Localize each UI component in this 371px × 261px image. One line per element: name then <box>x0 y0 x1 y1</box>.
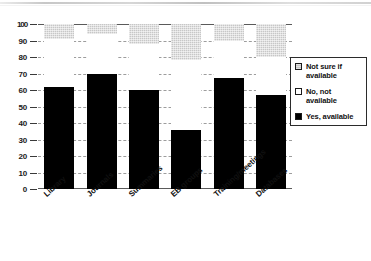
legend-swatch-yes <box>295 113 302 120</box>
y-axis-tick-label: 60 <box>19 86 28 95</box>
bar-segment <box>44 87 74 189</box>
y-axis-tick <box>30 189 37 190</box>
bar-segment <box>214 41 244 79</box>
y-axis-tick <box>30 41 37 42</box>
bar-group <box>171 24 201 189</box>
bar-segment <box>214 24 244 41</box>
legend-swatch-notsure <box>295 63 302 70</box>
x-axis-labels: LibraryJournalsSummariesEB groupsTrainin… <box>38 192 292 258</box>
bar-group <box>87 24 117 189</box>
y-axis-tick-label: 70 <box>19 69 28 78</box>
y-axis-tick <box>30 123 37 124</box>
y-axis-tick <box>30 74 37 75</box>
legend-item[interactable]: No, notavailable <box>295 87 363 106</box>
legend-label: Yes, available <box>306 112 353 121</box>
bar-segment <box>129 24 159 44</box>
y-axis-tick <box>30 24 37 25</box>
y-axis-tick <box>30 90 37 91</box>
legend-label: Not sure ifavailable <box>306 62 342 81</box>
bar-group <box>44 24 74 189</box>
bar-segment <box>44 39 74 87</box>
y-axis-tick-label: 40 <box>19 119 28 128</box>
y-axis-tick <box>30 140 37 141</box>
legend-label: No, notavailable <box>306 87 337 106</box>
bar-segment <box>87 24 117 34</box>
y-axis-tick-label: 80 <box>19 53 28 62</box>
y-axis-tick-label: 20 <box>19 152 28 161</box>
bar-segment <box>256 57 286 95</box>
bar-group <box>214 24 244 189</box>
bar-group <box>256 24 286 189</box>
legend-item[interactable]: Not sure ifavailable <box>295 62 363 81</box>
y-axis-tick <box>30 107 37 108</box>
y-axis-tick-label: 0 <box>23 185 27 194</box>
bar-segment <box>171 24 201 60</box>
bar-segment <box>129 44 159 90</box>
stacked-bar-chart: 0102030405060708090100 LibraryJournalsSu… <box>0 0 371 261</box>
bar-group <box>129 24 159 189</box>
legend-swatch-no <box>295 88 302 95</box>
y-axis-tick-label: 30 <box>19 135 28 144</box>
y-axis-tick-label: 50 <box>19 102 28 111</box>
y-axis-tick-label: 100 <box>17 20 27 29</box>
y-axis-tick <box>30 156 37 157</box>
bar-segment <box>171 60 201 129</box>
y-axis-tick-label: 90 <box>19 36 28 45</box>
y-axis-tick <box>30 57 37 58</box>
y-axis-tick <box>30 173 37 174</box>
bar-segment <box>256 24 286 57</box>
legend-item[interactable]: Yes, available <box>295 112 363 121</box>
bar-segment <box>87 34 117 74</box>
chart-legend: Not sure ifavailableNo, notavailableYes,… <box>290 57 367 126</box>
bar-segment <box>44 24 74 39</box>
y-axis-tick-label: 10 <box>19 168 28 177</box>
